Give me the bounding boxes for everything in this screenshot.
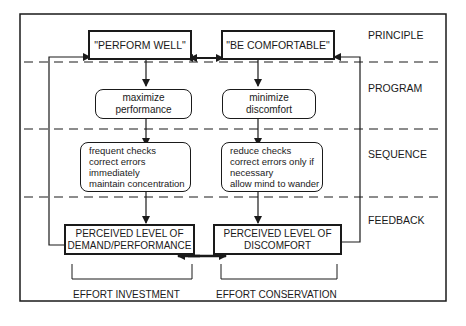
discomfort-box: PERCEIVED LEVEL OF DISCOMFORT (213, 224, 342, 255)
be-comfortable-box: "BE COMFORTABLE" (221, 30, 335, 60)
maximize-performance-box: maximize performance (95, 89, 192, 119)
effort-investment-bracket (72, 264, 192, 279)
minimize-discomfort-box: minimize discomfort (222, 89, 316, 119)
be-comfortable-text: "BE COMFORTABLE" (226, 39, 329, 51)
left-sequence-box: frequent checks correct errors immediate… (80, 142, 191, 192)
level-label-principle: PRINCIPLE (368, 29, 423, 41)
effort-investment-label: EFFORT INVESTMENT (73, 289, 180, 300)
level-label-sequence: SEQUENCE (368, 148, 427, 160)
level-label-program: PROGRAM (368, 82, 422, 94)
level-label-feedback: FEEDBACK (368, 214, 425, 226)
right-sequence-box: reduce checks correct errors only if nec… (221, 142, 323, 192)
effort-conservation-bracket (221, 264, 337, 279)
demand-performance-box: PERCEIVED LEVEL OF DEMAND/PERFORMANCE (64, 224, 195, 255)
effort-conservation-label: EFFORT CONSERVATION (216, 289, 337, 300)
perform-well-box: "PERFORM WELL" (88, 30, 192, 60)
perform-well-text: "PERFORM WELL" (94, 39, 185, 51)
right-feedback-loop (334, 57, 360, 242)
